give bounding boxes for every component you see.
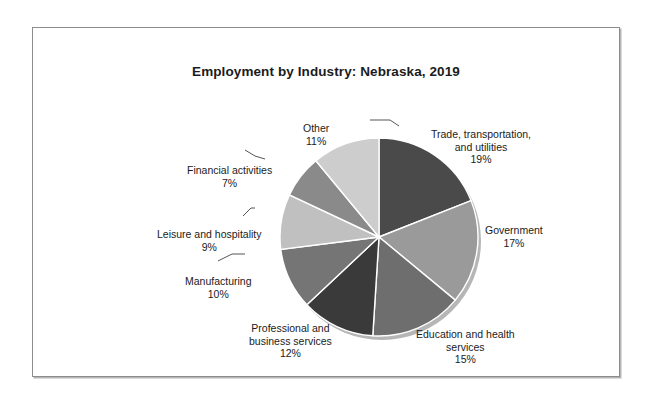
slice-label-trade-line2: and utilities xyxy=(455,141,508,153)
slice-value-professional: 12% xyxy=(249,347,332,360)
chart-screenshot: Employment by Industry: Nebraska, 2019 T… xyxy=(0,0,654,403)
slice-value-trade: 19% xyxy=(431,153,531,166)
slice-label-professional: Professional and business services 12% xyxy=(249,322,332,360)
slice-label-leisure: Leisure and hospitality 9% xyxy=(157,228,261,253)
slice-label-education-line1: Education and health xyxy=(416,328,515,340)
slice-label-trade-line1: Trade, transportation, xyxy=(431,128,531,140)
slice-label-education: Education and health services 15% xyxy=(416,328,515,366)
slice-label-financial-line1: Financial activities xyxy=(187,164,272,176)
slice-value-financial: 7% xyxy=(187,177,272,190)
pie-slices xyxy=(280,138,484,342)
slice-label-manufacturing-line1: Manufacturing xyxy=(185,275,252,287)
slice-label-manufacturing: Manufacturing 10% xyxy=(185,275,252,300)
slice-value-other: 11% xyxy=(303,135,329,148)
slice-value-leisure: 9% xyxy=(157,241,261,254)
chart-frame: Employment by Industry: Nebraska, 2019 T… xyxy=(32,27,620,377)
slice-label-other: Other 11% xyxy=(303,122,329,147)
slice-value-education: 15% xyxy=(416,353,515,366)
slice-label-education-line2: services xyxy=(446,341,485,353)
slice-value-government: 17% xyxy=(485,237,543,250)
slice-label-government-line1: Government xyxy=(485,224,543,236)
slice-value-manufacturing: 10% xyxy=(185,288,252,301)
chart-title: Employment by Industry: Nebraska, 2019 xyxy=(33,64,619,79)
slice-label-professional-line2: business services xyxy=(249,335,332,347)
slice-label-other-line1: Other xyxy=(303,122,329,134)
slice-label-government: Government 17% xyxy=(485,224,543,249)
slice-label-trade: Trade, transportation, and utilities 19% xyxy=(431,128,531,166)
slice-label-financial: Financial activities 7% xyxy=(187,164,272,189)
slice-label-professional-line1: Professional and xyxy=(251,322,329,334)
pie-chart xyxy=(280,138,484,342)
slice-label-leisure-line1: Leisure and hospitality xyxy=(157,228,261,240)
